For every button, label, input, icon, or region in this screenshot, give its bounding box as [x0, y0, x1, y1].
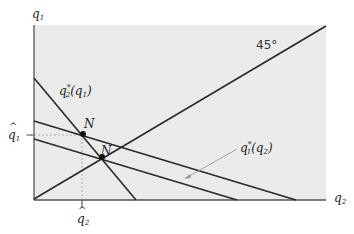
q2-hat-label: q2 [77, 213, 89, 227]
best-response-q1-label: q*1(q2) [240, 141, 273, 156]
best-response-q2-label: q*2(q1) [59, 84, 92, 99]
q1-hat-label: q1 [8, 129, 20, 143]
diagram-canvas [0, 0, 354, 234]
angle-label: 45° [256, 38, 277, 52]
x-axis-label: q2 [334, 192, 346, 206]
equilibrium-label-1: N [84, 118, 95, 130]
equilibrium-point-1 [80, 131, 86, 137]
equilibrium-label-2: N [101, 145, 112, 157]
y-axis-label: q1 [32, 8, 44, 22]
